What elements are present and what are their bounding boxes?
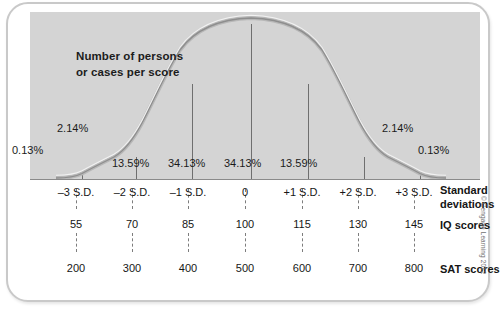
caption-line-1: Number of persons — [76, 48, 266, 64]
sat-tick-label-plus3: 800 — [405, 262, 423, 274]
sd-tick-label-minus3: –3 S.D. — [58, 186, 95, 198]
row-label-sat-text: SAT scores — [440, 262, 500, 276]
pct-label-below-minus3: 0.13% — [12, 144, 43, 156]
pct-label-minus3-minus2: 2.14% — [57, 122, 88, 134]
row-label-sat-scores: SAT scores — [440, 262, 500, 276]
iq-tick-label-minus3: 55 — [70, 218, 82, 230]
dash-iq-to-sat — [188, 233, 189, 252]
axis-baseline — [30, 179, 480, 180]
pct-label-zero-plus1: 34.13% — [224, 157, 261, 169]
panel-caption: Number of persons or cases per score — [76, 48, 266, 81]
iq-tick-label-plus1: 115 — [293, 218, 311, 230]
copyright-notice: © Cengage Learning 2012 — [480, 196, 487, 275]
sd-tick-label-plus2: +2 S.D. — [340, 186, 377, 198]
sat-tick-label-minus1: 400 — [179, 262, 197, 274]
pct-label-minus1-zero: 34.13% — [168, 157, 205, 169]
sat-tick-label-minus3: 200 — [67, 262, 85, 274]
sd-tick-label-plus1: +1 S.D. — [284, 186, 321, 198]
pct-label-plus2-plus3: 2.14% — [382, 122, 413, 134]
figure-frame: Number of persons or cases per score 0.1… — [6, 2, 490, 302]
iq-tick-label-zero: 100 — [236, 218, 254, 230]
dash-iq-to-sat — [302, 233, 303, 252]
iq-tick-label-plus2: 130 — [349, 218, 367, 230]
iq-tick-label-minus2: 70 — [126, 218, 138, 230]
sd-tick-label-minus1: –1 S.D. — [170, 186, 207, 198]
dash-iq-to-sat — [132, 233, 133, 252]
pct-label-above-plus3: 0.13% — [418, 144, 449, 156]
sat-tick-label-plus2: 700 — [349, 262, 367, 274]
iq-tick-label-minus1: 85 — [182, 218, 194, 230]
caption-line-2: or cases per score — [76, 64, 266, 80]
sat-tick-label-zero: 500 — [236, 262, 254, 274]
pct-label-minus2-minus1: 13.59% — [112, 157, 149, 169]
iq-tick-label-plus3: 145 — [405, 218, 423, 230]
dash-iq-to-sat — [414, 233, 415, 252]
sat-tick-label-minus2: 300 — [123, 262, 141, 274]
sd-tick-label-plus3: +3 S.D. — [396, 186, 433, 198]
dash-iq-to-sat — [358, 233, 359, 252]
sat-tick-label-plus1: 600 — [293, 262, 311, 274]
sd-tick-label-minus2: –2 S.D. — [114, 186, 151, 198]
pct-label-plus1-plus2: 13.59% — [280, 157, 317, 169]
sd-tick-label-zero: 0 — [242, 186, 248, 198]
normal-curve-graphic — [30, 12, 480, 180]
dash-iq-to-sat — [76, 233, 77, 252]
dash-iq-to-sat — [245, 233, 246, 252]
distribution-plot-panel: Number of persons or cases per score — [30, 12, 480, 180]
